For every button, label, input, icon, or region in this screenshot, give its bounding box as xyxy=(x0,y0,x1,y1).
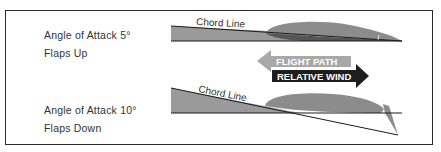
airfoil-diagram: Chord Line FLIGHT PATH RELATIVE WIND Cho… xyxy=(0,0,441,152)
flight-path-arrow: FLIGHT PATH xyxy=(257,50,351,72)
flight-path-label: FLIGHT PATH xyxy=(276,56,338,67)
relative-wind-label: RELATIVE WIND xyxy=(277,71,351,82)
bottom-flap xyxy=(383,104,398,135)
top-airfoil-group: Chord Line xyxy=(171,16,402,41)
bottom-airfoil-group: Chord Line xyxy=(171,83,402,135)
top-chord-label: Chord Line xyxy=(196,16,246,30)
relative-wind-arrow: RELATIVE WIND xyxy=(272,64,369,88)
